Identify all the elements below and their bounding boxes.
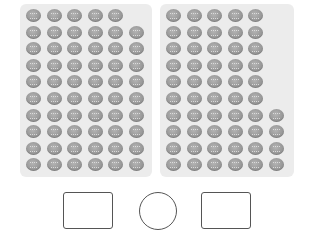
cookie-icon: [269, 158, 284, 171]
cookie-icon: [207, 125, 222, 138]
cookie-icon: [166, 26, 181, 39]
cookie-icon: [228, 75, 243, 88]
cookie-icon: [187, 75, 202, 88]
cookie-icon: [26, 158, 41, 171]
cookie-icon: [108, 59, 123, 72]
cookie-icon: [187, 26, 202, 39]
cookie-icon: [129, 109, 144, 122]
cookie-icon: [166, 75, 181, 88]
answer-box-right[interactable]: [201, 192, 251, 229]
cookie-icon: [26, 42, 41, 55]
cookie-icon: [166, 59, 181, 72]
cookie-group-right: [160, 4, 294, 177]
cookie-icon: [47, 109, 62, 122]
cookie-icon: [269, 125, 284, 138]
cookie-icon: [166, 158, 181, 171]
cookie-icon: [187, 59, 202, 72]
cookie-icon: [67, 26, 82, 39]
cookie-icon: [187, 9, 202, 22]
cookie-icon: [26, 142, 41, 155]
cookie-icon: [108, 125, 123, 138]
comparison-circle[interactable]: [139, 192, 177, 230]
cookie-icon: [228, 42, 243, 55]
cookie-icon: [248, 9, 263, 22]
cookie-icon: [108, 75, 123, 88]
cookie-icon: [108, 42, 123, 55]
cookie-icon: [248, 59, 263, 72]
cookie-icon: [67, 158, 82, 171]
cookie-icon: [269, 142, 284, 155]
cookie-icon: [166, 142, 181, 155]
cookie-icon: [108, 109, 123, 122]
cookie-icon: [88, 75, 103, 88]
cookie-icon: [108, 92, 123, 105]
cookie-icon: [269, 109, 284, 122]
cookie-icon: [67, 9, 82, 22]
cookie-icon: [248, 92, 263, 105]
cookie-icon: [166, 109, 181, 122]
cookie-icon: [228, 26, 243, 39]
cookie-icon: [88, 59, 103, 72]
cookie-icon: [166, 92, 181, 105]
cookie-icon: [47, 92, 62, 105]
cookie-icon: [248, 125, 263, 138]
cookie-icon: [47, 142, 62, 155]
cookie-icon: [187, 158, 202, 171]
cookie-icon: [88, 42, 103, 55]
cookie-icon: [248, 42, 263, 55]
cookie-icon: [207, 42, 222, 55]
cookie-icon: [108, 158, 123, 171]
cookie-icon: [228, 59, 243, 72]
cookie-icon: [228, 9, 243, 22]
cookie-icon: [207, 75, 222, 88]
cookie-icon: [26, 9, 41, 22]
cookie-icon: [166, 42, 181, 55]
cookie-icon: [47, 42, 62, 55]
cookie-icon: [207, 59, 222, 72]
cookie-icon: [26, 59, 41, 72]
cookie-icon: [248, 75, 263, 88]
cookie-icon: [129, 125, 144, 138]
cookie-icon: [47, 59, 62, 72]
cookie-icon: [88, 158, 103, 171]
cookie-icon: [207, 9, 222, 22]
cookie-icon: [207, 109, 222, 122]
cookie-icon: [228, 92, 243, 105]
cookie-icon: [108, 26, 123, 39]
cookie-icon: [129, 59, 144, 72]
cookie-icon: [88, 9, 103, 22]
cookie-icon: [67, 59, 82, 72]
cookie-icon: [26, 109, 41, 122]
cookie-icon: [207, 158, 222, 171]
cookie-icon: [67, 92, 82, 105]
cookie-icon: [88, 142, 103, 155]
cookie-icon: [67, 75, 82, 88]
answer-box-left[interactable]: [63, 192, 113, 229]
cookie-icon: [187, 142, 202, 155]
cookie-icon: [248, 109, 263, 122]
cookie-icon: [166, 125, 181, 138]
cookie-icon: [248, 26, 263, 39]
cookie-icon: [187, 42, 202, 55]
cookie-icon: [207, 142, 222, 155]
cookie-icon: [187, 109, 202, 122]
cookie-icon: [47, 26, 62, 39]
cookie-icon: [47, 125, 62, 138]
cookie-icon: [166, 9, 181, 22]
cookie-icon: [26, 26, 41, 39]
cookie-icon: [207, 92, 222, 105]
cookie-icon: [129, 92, 144, 105]
cookie-icon: [228, 125, 243, 138]
cookie-icon: [26, 75, 41, 88]
cookie-icon: [228, 142, 243, 155]
cookie-icon: [26, 92, 41, 105]
cookie-icon: [129, 142, 144, 155]
cookie-icon: [47, 9, 62, 22]
cookie-icon: [26, 125, 41, 138]
cookie-icon: [248, 158, 263, 171]
cookie-icon: [88, 92, 103, 105]
cookie-icon: [108, 9, 123, 22]
cookie-icon: [67, 109, 82, 122]
cookie-icon: [129, 158, 144, 171]
cookie-icon: [228, 109, 243, 122]
